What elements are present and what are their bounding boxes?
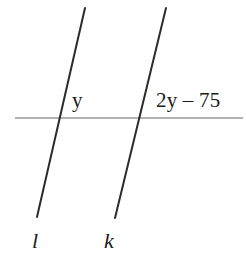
line-label-k: k: [104, 230, 114, 252]
angle-label-2y-minus-75: 2y – 75: [156, 90, 220, 111]
line-l: [37, 8, 85, 217]
angle-label-y: y: [72, 90, 83, 111]
line-label-l: l: [32, 230, 38, 252]
line-k: [115, 8, 166, 218]
geometry-figure: y 2y – 75 l k: [0, 0, 246, 266]
geometry-canvas: [0, 0, 246, 266]
